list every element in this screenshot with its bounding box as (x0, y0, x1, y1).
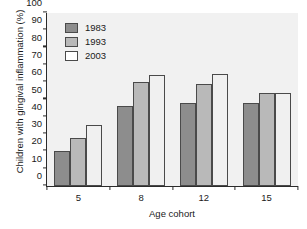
y-tick-label: 60 (31, 66, 47, 77)
legend-swatch (65, 51, 78, 61)
y-tick-mark (43, 150, 47, 151)
y-tick-mark (43, 63, 47, 64)
bar (54, 151, 70, 186)
x-tick-mark (46, 186, 47, 190)
y-tick-mark (43, 80, 47, 81)
legend-item: 1993 (65, 35, 106, 48)
y-tick-label: 50 (31, 83, 47, 94)
bar (149, 75, 165, 186)
x-tick-label: 5 (76, 192, 81, 203)
bar (180, 103, 196, 186)
chart-legend: 198319932003 (65, 21, 106, 63)
x-tick-mark (297, 186, 298, 190)
bar (70, 138, 86, 186)
bar-chart-figure: Children with gingival inflammation (%) … (0, 0, 307, 229)
x-tick-mark (172, 186, 173, 190)
bar (243, 103, 259, 186)
x-tick-label: 15 (261, 192, 272, 203)
bar (117, 106, 133, 186)
y-tick-mark (43, 46, 47, 47)
y-tick-label: 0 (37, 170, 47, 181)
x-tick-label: 8 (138, 192, 143, 203)
y-tick-label: 80 (31, 31, 47, 42)
y-tick-mark (43, 167, 47, 168)
bar (212, 74, 228, 186)
y-tick-mark (43, 132, 47, 133)
legend-item: 2003 (65, 49, 106, 62)
x-tick-mark (235, 186, 236, 190)
legend-item: 1983 (65, 21, 106, 34)
y-tick-mark (43, 98, 47, 99)
legend-swatch (65, 23, 78, 33)
bar (86, 125, 102, 186)
bar (133, 82, 149, 186)
y-tick-label: 30 (31, 118, 47, 129)
y-tick-label: 90 (31, 14, 47, 25)
y-tick-label: 40 (31, 100, 47, 111)
legend-label: 1993 (85, 37, 106, 47)
y-tick-label: 10 (31, 152, 47, 163)
legend-swatch (65, 37, 78, 47)
x-tick-label: 12 (199, 192, 210, 203)
y-tick-mark (43, 11, 47, 12)
bar (275, 93, 291, 186)
plot-area: 0102030405060708090100 581215 1983199320… (46, 13, 298, 187)
bar (259, 93, 275, 186)
y-tick-label: 20 (31, 135, 47, 146)
y-tick-mark (43, 115, 47, 116)
x-tick-mark (109, 186, 110, 190)
legend-label: 1983 (85, 23, 106, 33)
y-axis-title: Children with gingival inflammation (%) (14, 0, 25, 187)
legend-label: 2003 (85, 51, 106, 61)
x-axis-title: Age cohort (46, 208, 298, 219)
y-tick-label: 70 (31, 48, 47, 59)
bar (196, 84, 212, 186)
y-tick-label: 100 (26, 0, 47, 8)
y-tick-mark (43, 29, 47, 30)
